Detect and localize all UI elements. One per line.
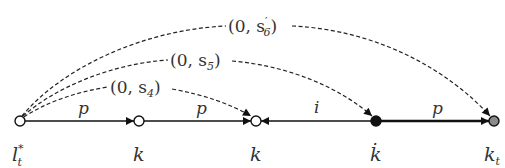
arc-s4 xyxy=(24,87,108,117)
node-label-k-t: kt xyxy=(484,143,501,168)
node-label-k-dot: k̇ xyxy=(370,142,382,165)
node-k-t xyxy=(489,116,499,126)
edge-label-p3: p xyxy=(432,98,443,118)
arc-label-s5: (0, s5) xyxy=(170,50,221,73)
node-k-dot xyxy=(371,116,381,126)
node-label-k-1: k xyxy=(133,143,145,165)
dashed-arcs xyxy=(22,26,490,117)
node-label-l-t-star: l*t xyxy=(12,142,24,168)
path-diagram: (0, s4) (0, s5) (0, s′6) p p i p l*t k k… xyxy=(0,0,505,168)
node-l-t-star xyxy=(15,116,25,126)
arc-s5-right xyxy=(232,61,372,116)
edge-label-p2: p xyxy=(196,98,207,118)
arc-label-s4: (0, s4) xyxy=(110,77,161,100)
arc-label-s6-prime: (0, s′6) xyxy=(228,15,277,39)
arc-s6-right xyxy=(292,26,490,116)
node-k-1 xyxy=(134,116,144,126)
node-label-k-2: k xyxy=(250,143,262,165)
arc-s4-right xyxy=(172,89,251,116)
edge-label-i: i xyxy=(314,97,319,117)
node-k-2 xyxy=(251,116,261,126)
edge-label-p1: p xyxy=(78,98,89,118)
